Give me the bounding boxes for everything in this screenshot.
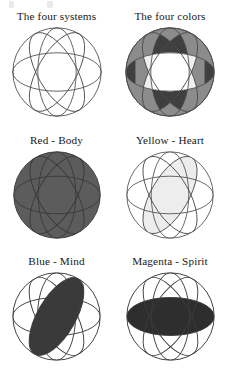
panel-caption: Red - Body xyxy=(30,134,83,147)
sphere-four-colors xyxy=(122,24,218,120)
sphere-blue-mind xyxy=(9,269,104,364)
scan-artifact xyxy=(47,1,53,8)
sphere-yellow-heart xyxy=(123,148,217,242)
figure-root: The four systems The four colors xyxy=(0,0,227,388)
panel-caption: The four colors xyxy=(134,10,205,23)
panel-caption: The four systems xyxy=(17,10,96,23)
panel-caption: Magenta - Spirit xyxy=(132,255,208,268)
panel-red-body: Red - Body xyxy=(0,134,113,255)
panel-four-colors: The four colors xyxy=(113,10,227,134)
panel-grid: The four systems The four colors xyxy=(0,10,227,381)
panel-blue-mind: Blue - Mind xyxy=(0,255,113,381)
panel-caption: Blue - Mind xyxy=(28,255,84,268)
panel-four-systems: The four systems xyxy=(0,10,113,134)
panel-caption: Yellow - Heart xyxy=(136,134,204,147)
panel-magenta-spirit: Magenta - Spirit xyxy=(113,255,227,381)
sphere-magenta-spirit xyxy=(123,269,218,364)
scan-artifact xyxy=(9,1,14,8)
sphere-red-body xyxy=(10,148,104,242)
sphere-four-systems xyxy=(9,24,105,120)
panel-yellow-heart: Yellow - Heart xyxy=(113,134,227,255)
